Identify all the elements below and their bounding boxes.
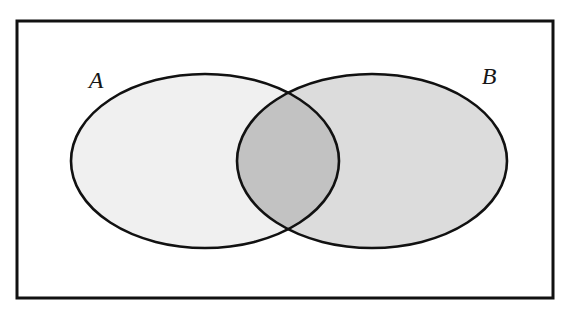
venn-diagram-figure: A B — [0, 0, 584, 313]
venn-diagram-canvas: A B — [0, 0, 584, 313]
set-b-label: B — [482, 63, 497, 89]
set-a-label: A — [87, 67, 104, 93]
